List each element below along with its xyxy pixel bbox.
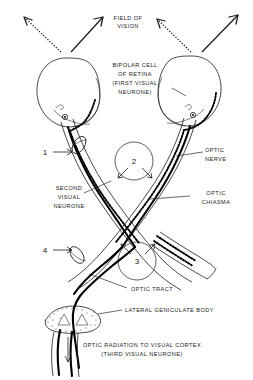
field-of-vision-label-line2: VISION — [117, 23, 139, 29]
optic-chiasma-label-line1: OPTIC — [206, 190, 225, 196]
arrow-up-right-solid-right-eye — [202, 15, 238, 52]
bipolar-cell-label-line1: BIPOLAR CELL — [112, 62, 157, 68]
second-neurone-label-line2: VISUAL — [58, 194, 81, 200]
bipolar-cell-label-line4: NEURONE) — [118, 89, 151, 95]
lateral-geniculate-body-label: LATERAL GENICULATE BODY — [125, 307, 214, 313]
visual-pathway-figure: FIELD OF VISION BIPOLAR CELL OF RETINA (… — [0, 0, 253, 380]
marker-4-arrow — [53, 247, 72, 253]
visual-pathway-diagram: FIELD OF VISION BIPOLAR CELL OF RETINA (… — [0, 0, 253, 380]
marker-4-number: 4 — [43, 246, 48, 255]
marker-1-number: 1 — [43, 148, 48, 157]
section-band-4 — [67, 244, 87, 266]
leader-lgb — [98, 310, 122, 314]
right-optic-tract-bundle — [152, 232, 216, 279]
optic-radiation-label-line2: (THIRD VISUAL NEURONE) — [101, 351, 183, 357]
marker-3-number: 3 — [135, 257, 140, 266]
optic-radiation-label-line1: OPTIC RADIATION TO VISUAL CORTEX — [83, 342, 201, 348]
left-eyeball — [37, 58, 100, 131]
lgb-stipple — [45, 308, 97, 332]
arrow-up-right-solid-left-eye — [71, 17, 103, 52]
leader-lines — [84, 88, 203, 314]
optic-chiasma-label-line2: CHIASMA — [202, 199, 231, 205]
optic-nerve-label-line1: OPTIC — [205, 147, 224, 153]
marker-1-arrow — [53, 149, 72, 155]
bipolar-cell-label-line3: (FIRST VISUAL — [112, 80, 157, 86]
field-arrows-right — [157, 15, 238, 52]
bipolar-cell-label-line2: OF RETINA — [118, 71, 152, 77]
right-optic-nerve-sheath — [68, 118, 196, 290]
second-neurone-label-line1: SECOND — [56, 185, 83, 191]
arrow-up-left-dotted-right-eye — [157, 19, 191, 52]
optic-nerve-label-line2: NERVE — [205, 156, 226, 162]
leader-bipolar-cell — [172, 88, 186, 96]
arrow-up-left-dotted-left-eye — [24, 17, 61, 52]
marker-2-number: 2 — [132, 157, 137, 166]
optic-tract-label: OPTIC TRACT — [131, 286, 173, 292]
field-arrows-left — [24, 17, 103, 52]
second-neurone-label-line3: NEURONE — [53, 203, 84, 209]
field-of-vision-label-line1: FIELD OF — [114, 15, 143, 21]
right-eyeball — [158, 56, 221, 130]
bipolar-cell-right — [185, 105, 196, 118]
